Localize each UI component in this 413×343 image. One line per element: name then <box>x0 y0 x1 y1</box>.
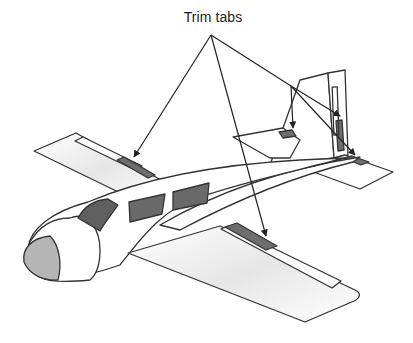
airplane-diagram <box>0 0 413 343</box>
callout-line-left-wing <box>134 35 211 157</box>
left-elevator-trim-tab <box>279 130 296 138</box>
